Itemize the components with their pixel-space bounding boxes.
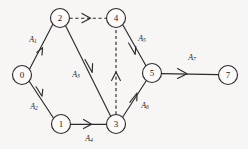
edge-a5-label: A5 — [137, 34, 146, 44]
edge-a2: A2 — [29, 81, 53, 118]
node-1[interactable]: 1 — [52, 115, 71, 134]
node-4-label: 4 — [114, 13, 119, 23]
edge-a2-arrowhead — [36, 87, 43, 96]
node-3[interactable]: 3 — [107, 115, 126, 134]
edge-a2-label-sub: 2 — [35, 105, 38, 111]
edge-a3: A3 — [66, 26, 111, 117]
edge-a1-label-sub: 1 — [34, 38, 37, 44]
node-0[interactable]: 0 — [13, 66, 32, 85]
edge-a5-line — [123, 25, 147, 67]
node-0-label: 0 — [20, 70, 25, 80]
edge-a6-line — [122, 80, 146, 117]
edge-a5: A5 — [123, 25, 147, 67]
edge-a1-label: A1 — [28, 35, 37, 45]
node-3-label: 3 — [114, 119, 119, 129]
node-7[interactable]: 7 — [219, 66, 238, 85]
edge-a6-label: A6 — [140, 101, 149, 111]
edge-a2-label: A2 — [29, 102, 38, 112]
node-5[interactable]: 5 — [143, 64, 162, 83]
node-5-label: 5 — [150, 68, 155, 78]
edge-dummy-3-4 — [112, 28, 121, 115]
edge-a2-line — [29, 81, 53, 118]
edge-dummy-2-4 — [70, 13, 107, 22]
edge-a4-label: A4 — [84, 134, 93, 144]
edge-a6: A6 — [122, 80, 149, 117]
edge-a7-label: A7 — [187, 53, 196, 63]
edge-a4-label-sub: 4 — [90, 137, 93, 143]
network-graph: A1 A2 A3 A4 A5 A6 — [0, 0, 248, 149]
edge-a4: A4 — [71, 120, 107, 144]
node-2[interactable]: 2 — [51, 9, 70, 28]
node-4[interactable]: 4 — [107, 9, 126, 28]
edge-a7: A7 — [162, 53, 219, 79]
node-7-label: 7 — [226, 70, 231, 80]
edge-a1-line — [30, 24, 53, 69]
edge-a6-label-sub: 6 — [146, 104, 149, 110]
node-2-label: 2 — [58, 13, 63, 23]
node-1-label: 1 — [59, 119, 64, 129]
edge-a3-label-sub: 3 — [76, 73, 80, 79]
edge-a5-label-sub: 5 — [143, 37, 146, 43]
edge-a3-label: A3 — [71, 70, 80, 80]
diagram-canvas: A1 A2 A3 A4 A5 A6 — [0, 0, 248, 149]
edge-a7-label-sub: 7 — [193, 56, 196, 62]
edge-a7-line — [162, 74, 219, 75]
edge-a1: A1 — [28, 24, 53, 69]
